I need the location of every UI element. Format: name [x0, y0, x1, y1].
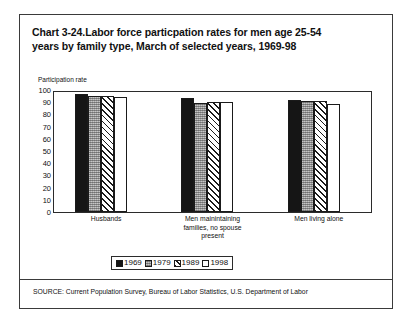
- legend-label-1969: 1969: [124, 259, 142, 267]
- x-axis-category-labels: HusbandsMen mainintainingfamilies, no sp…: [53, 215, 372, 249]
- legend-item-1989: 1989: [174, 259, 200, 267]
- bar-1989-cat3: [314, 101, 327, 212]
- bar-1969-cat2: [181, 98, 194, 212]
- plot-inner: [54, 92, 371, 212]
- y-axis-tick-labels: 0102030405060708090100: [29, 91, 51, 213]
- y-tick-label-70: 70: [31, 124, 51, 132]
- chart-title-line-1: Chart 3-24.Labor force particpation rate…: [32, 25, 382, 39]
- bar-1989-cat2: [207, 102, 220, 212]
- bar-1969-cat3: [288, 100, 301, 212]
- legend-item-1969: 1969: [116, 259, 142, 267]
- chart-frame: Chart 3-24.Labor force particpation rate…: [19, 14, 393, 309]
- chart-figure: Chart 3-24.Labor force particpation rate…: [0, 0, 413, 325]
- category-label-2-line-3: present: [159, 232, 265, 241]
- legend-label-1979: 1979: [153, 259, 171, 267]
- chart-title-line-2: years by family type, March of selected …: [32, 39, 382, 53]
- bar-1998-cat3: [327, 104, 340, 212]
- category-label-3: Men living alone: [266, 215, 372, 224]
- legend-swatch-1979: [145, 260, 152, 267]
- y-tick-label-80: 80: [31, 111, 51, 119]
- legend-item-1998: 1998: [202, 259, 228, 267]
- category-label-1-line-1: Husbands: [53, 215, 159, 224]
- category-label-2-line-1: Men mainintaining: [159, 215, 265, 224]
- chart-legend: 1969197919891998: [111, 256, 233, 270]
- source-note: SOURCE: Current Population Survey, Burea…: [33, 288, 308, 295]
- bar-1979-cat1: [88, 96, 101, 212]
- legend-label-1989: 1989: [182, 259, 200, 267]
- y-tick-label-40: 40: [31, 160, 51, 168]
- legend-label-1998: 1998: [210, 259, 228, 267]
- y-tick-label-100: 100: [31, 87, 51, 95]
- legend-swatch-1969: [116, 260, 123, 267]
- y-tick-label-90: 90: [31, 99, 51, 107]
- category-label-2: Men mainintainingfamilies, no spousepres…: [159, 215, 265, 241]
- bar-group-2: [160, 92, 266, 212]
- bar-1998-cat1: [114, 97, 127, 212]
- y-axis-title: Participation rate: [38, 76, 87, 83]
- category-label-1: Husbands: [53, 215, 159, 224]
- plot-area: [53, 91, 372, 213]
- y-tick-label-0: 0: [31, 209, 51, 217]
- category-label-2-line-2: families, no spouse: [159, 224, 265, 233]
- y-tick-label-30: 30: [31, 172, 51, 180]
- legend-item-1979: 1979: [145, 259, 171, 267]
- bar-group-1: [54, 92, 160, 212]
- y-tick-label-10: 10: [31, 197, 51, 205]
- bar-1989-cat1: [101, 96, 114, 212]
- category-label-3-line-1: Men living alone: [266, 215, 372, 224]
- y-tick-label-20: 20: [31, 185, 51, 193]
- legend-swatch-1998: [202, 260, 209, 267]
- legend-swatch-1989: [174, 260, 181, 267]
- bar-1998-cat2: [220, 102, 233, 212]
- bar-1969-cat1: [75, 94, 88, 212]
- footer-divider: [20, 279, 392, 280]
- y-tick-label-50: 50: [31, 148, 51, 156]
- bar-1979-cat3: [301, 101, 314, 212]
- chart-title: Chart 3-24.Labor force particpation rate…: [32, 25, 382, 53]
- bar-1979-cat2: [194, 103, 207, 212]
- y-tick-label-60: 60: [31, 136, 51, 144]
- bar-group-3: [267, 92, 373, 212]
